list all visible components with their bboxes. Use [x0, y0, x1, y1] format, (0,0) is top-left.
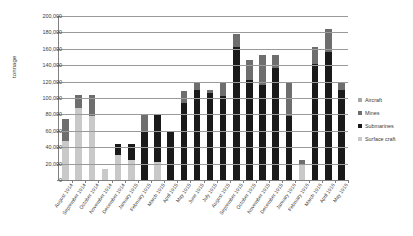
bar-segment: [259, 55, 266, 85]
x-axis-labels: August 1914September 1914October 1914Nov…: [58, 182, 347, 236]
bar-segment: [154, 162, 161, 180]
bar-stack: [167, 131, 174, 180]
legend-swatch-icon: [358, 111, 362, 115]
grid-line: [59, 164, 348, 165]
legend: AircraftMinesSubmarinesSurface craft: [358, 93, 412, 145]
bar-segment: [272, 55, 279, 68]
grid-line: [59, 65, 348, 66]
bar-segment: [102, 169, 109, 180]
bar-stack: [181, 91, 188, 180]
y-tick-label: 100,000: [26, 95, 62, 101]
bar-chart: tonnage 020,00040,00060,00080,000100,000…: [0, 0, 413, 236]
legend-item: Mines: [358, 106, 412, 119]
y-tick-label: 0: [26, 177, 62, 183]
bar-stack: [75, 95, 82, 180]
bar-segment: [207, 93, 214, 180]
y-tick-label: 40,000: [26, 144, 62, 150]
bar-stack: [207, 90, 214, 180]
y-tick-label: 140,000: [26, 62, 62, 68]
bar-stack: [233, 34, 240, 180]
legend-label: Surface craft: [365, 136, 396, 142]
legend-swatch-icon: [358, 124, 362, 128]
bar-segment: [141, 114, 148, 130]
legend-label: Mines: [365, 110, 379, 116]
bar-stack: [325, 29, 332, 180]
bar-segment: [115, 155, 122, 180]
y-tick-label: 80,000: [26, 111, 62, 117]
bar-segment: [220, 83, 227, 96]
grid-line: [59, 98, 348, 99]
legend-label: Aircraft: [365, 97, 382, 103]
bar-stack: [115, 144, 122, 180]
x-tick-mark: [348, 180, 349, 183]
bar-segment: [220, 96, 227, 180]
bar-segment: [286, 83, 293, 116]
bar-segment: [75, 108, 82, 180]
bar-segment: [167, 131, 174, 180]
bar-stack: [272, 55, 279, 180]
bar-segment: [115, 144, 122, 155]
bar-stack: [62, 119, 69, 180]
grid-line: [59, 49, 348, 50]
bar-segment: [299, 165, 306, 180]
bar-segment: [233, 34, 240, 47]
y-axis-title: tonnage: [11, 18, 17, 78]
legend-label: Submarines: [365, 123, 394, 129]
bar-stack: [102, 169, 109, 180]
bar-segment: [141, 131, 148, 180]
grid-line: [59, 16, 348, 17]
bar-segment: [259, 85, 266, 180]
y-tick-label: 120,000: [26, 79, 62, 85]
grid-line: [59, 32, 348, 33]
bar-stack: [259, 55, 266, 180]
bar-segment: [338, 90, 345, 180]
legend-swatch-icon: [358, 98, 362, 102]
bar-stack: [89, 95, 96, 180]
grid-line: [59, 131, 348, 132]
grid-line: [59, 82, 348, 83]
y-tick-label: 60,000: [26, 128, 62, 134]
bar-segment: [246, 60, 253, 80]
plot-area: [58, 16, 348, 181]
grid-line: [59, 114, 348, 115]
legend-item: Aircraft: [358, 93, 412, 106]
y-tick-label: 200,000: [26, 13, 62, 19]
grid-line: [59, 147, 348, 148]
y-tick-label: 180,000: [26, 29, 62, 35]
legend-item: Submarines: [358, 119, 412, 132]
bar-segment: [154, 114, 161, 162]
y-tick-label: 160,000: [26, 46, 62, 52]
bar-segment: [75, 95, 82, 108]
legend-swatch-icon: [358, 137, 362, 141]
y-tick-label: 20,000: [26, 161, 62, 167]
bar-segment: [325, 52, 332, 180]
bar-stack: [246, 60, 253, 180]
bar-stack: [128, 144, 135, 180]
bar-segment: [194, 90, 201, 180]
legend-item: Surface craft: [358, 132, 412, 145]
